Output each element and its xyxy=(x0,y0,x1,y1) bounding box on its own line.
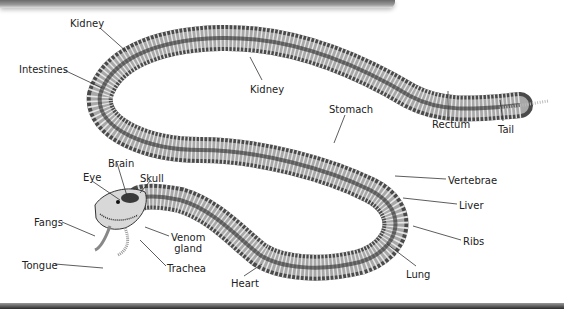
label-trachea: Trachea xyxy=(167,263,206,274)
label-heart: Heart xyxy=(231,278,259,289)
label-tail: Tail xyxy=(498,124,514,135)
label-eye: Eye xyxy=(83,172,101,183)
label-lung: Lung xyxy=(406,269,430,280)
label-vertebrae: Vertebrae xyxy=(448,175,497,186)
label-tongue: Tongue xyxy=(22,260,58,271)
label-intestines: Intestines xyxy=(19,64,68,75)
label-stomach: Stomach xyxy=(329,104,373,115)
label-rectum: Rectum xyxy=(432,119,470,130)
snake-head xyxy=(95,189,146,255)
label-kidney-1: Kidney xyxy=(70,18,104,29)
snake-skeleton-illustration xyxy=(0,0,564,309)
label-liver: Liver xyxy=(459,200,484,211)
label-brain: Brain xyxy=(108,158,134,169)
bottom-bar xyxy=(0,303,564,309)
label-venom-gland: Venomgland xyxy=(171,232,205,254)
label-fangs: Fangs xyxy=(34,217,63,228)
label-skull: Skull xyxy=(140,173,164,184)
label-ribs: Ribs xyxy=(463,236,484,247)
label-kidney-2: Kidney xyxy=(250,84,284,95)
